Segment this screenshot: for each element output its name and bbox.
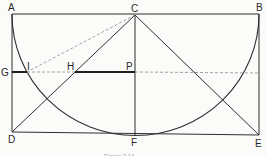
label-H: H [67, 61, 74, 72]
dashed-CI [27, 15, 135, 72]
label-A: A [8, 2, 15, 13]
geometry-figure: A B C D E F G I H P Figure 3.14 [0, 0, 267, 156]
label-B: B [256, 2, 263, 13]
diagram-canvas: A B C D E F G I H P Figure 3.14 [0, 0, 267, 156]
label-C: C [131, 3, 138, 14]
dashed-P-to-right [135, 72, 259, 73]
label-G: G [1, 67, 9, 78]
figure-caption: Figure 3.14 [104, 153, 135, 156]
label-I: I [27, 61, 30, 72]
label-P: P [126, 61, 133, 72]
label-F: F [131, 137, 137, 148]
edge-CE [135, 15, 259, 135]
label-E: E [255, 138, 262, 149]
edge-DC [12, 15, 135, 132]
label-D: D [8, 134, 15, 145]
